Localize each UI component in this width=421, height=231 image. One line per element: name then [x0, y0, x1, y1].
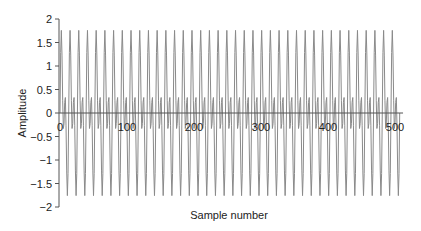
y-axis-title: Amplitude: [16, 89, 28, 138]
y-axis: [55, 19, 59, 207]
y-tick-label: −1.5: [30, 178, 52, 190]
y-tick-label: 2: [46, 13, 52, 25]
y-tick-label: −2: [39, 201, 52, 213]
x-tick-label: 300: [252, 121, 270, 133]
y-tick-label: 0: [46, 107, 52, 119]
y-tick-label: −1: [39, 154, 52, 166]
x-tick-label: 400: [319, 121, 337, 133]
waveform-chart: 0100200300400500 21.510.50−0.5−1−1.5−2 S…: [0, 0, 421, 231]
y-tick-label: 1.5: [37, 37, 52, 49]
y-tick-label: 1: [46, 60, 52, 72]
x-axis-title: Sample number: [190, 209, 268, 221]
x-tick-label: 100: [118, 121, 136, 133]
y-tick-label: −0.5: [30, 131, 52, 143]
x-tick-label: 200: [185, 121, 203, 133]
y-tick-labels: 21.510.50−0.5−1−1.5−2: [30, 13, 52, 213]
x-tick-label: 0: [57, 121, 63, 133]
y-tick-label: 0.5: [37, 84, 52, 96]
x-tick-label: 500: [386, 121, 404, 133]
